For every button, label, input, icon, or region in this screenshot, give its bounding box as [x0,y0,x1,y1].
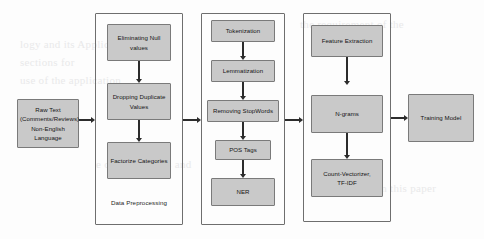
raw-text-line-0: Raw Text [20,105,76,114]
node-n-grams[interactable]: N-grams [311,95,383,133]
arrow-rawtext-to-preprocessing [79,114,95,126]
tokenization-label: Tokenization [214,26,272,35]
pos-tags-label: POS Tags [218,145,268,154]
arrow-featureengineering-to-trainingmodel [391,112,408,124]
count-vectorizer-tfidf-line-1: TF-IDF [314,178,380,187]
arrow-textprocessing-to-featureengineering [285,114,303,126]
group-label-data-preprocessing: Data Preprocessing [95,199,183,206]
node-dropping-duplicate-values[interactable]: Dropping Duplicate Values [107,83,171,120]
node-tokenization[interactable]: Tokenization [211,20,275,42]
node-factorize-categories[interactable]: Factorize Categories [107,142,171,179]
arrow-preprocessing-to-textprocessing [183,114,201,126]
node-pos-tags[interactable]: POS Tags [215,140,271,160]
eliminating-null-values-line-1: values [110,43,168,52]
node-feature-extraction[interactable]: Feature Extraction [311,25,383,57]
arrow-null-to-duplicate [133,61,145,83]
node-training-model[interactable]: Training Model [408,94,474,142]
lemmatization-label: Lemmatization [214,66,272,75]
arrow-featureextraction-to-ngrams [341,57,353,85]
count-vectorizer-tfidf-line-0: Count-Vectorizer, [314,169,380,178]
eliminating-null-values-line-0: Eliminating Null [110,33,168,42]
raw-text-line-1: (Comments/Reviews) [20,114,76,123]
pipeline-diagram: logy and its Applications sections for u… [0,0,484,239]
factorize-categories-line-0: Factorize Categories [110,156,168,165]
ner-label: NER [214,187,272,196]
feature-extraction-label: Feature Extraction [314,36,380,45]
raw-text-line-2: Non-English [20,124,76,133]
dropping-duplicate-values-line-0: Dropping Duplicate [110,92,168,101]
raw-text-line-3: Language [20,133,76,142]
arrow-ngrams-to-countvectorizer [341,133,353,159]
bleed-text-1: sections for [20,56,75,68]
arrow-postags-to-ner [237,160,249,178]
node-count-vectorizer-tfidf[interactable]: Count-Vectorizer, TF-IDF [311,159,383,197]
n-grams-label: N-grams [314,109,380,118]
removing-stopwords-label: Removing StopWords [210,106,276,115]
node-eliminating-null-values[interactable]: Eliminating Null values [107,24,171,61]
node-lemmatization[interactable]: Lemmatization [211,60,275,82]
arrow-lemmatization-to-stopwords [237,82,249,100]
arrow-duplicate-to-factorize [133,120,145,142]
node-removing-stopwords[interactable]: Removing StopWords [207,100,279,122]
arrow-stopwords-to-postags [237,122,249,140]
training-model-label: Training Model [411,113,471,122]
dropping-duplicate-values-line-1: Values [110,102,168,111]
node-raw-text[interactable]: Raw Text (Comments/Reviews) Non-English … [17,99,79,148]
node-ner[interactable]: NER [211,178,275,206]
arrow-tokenization-to-lemmatization [237,42,249,60]
